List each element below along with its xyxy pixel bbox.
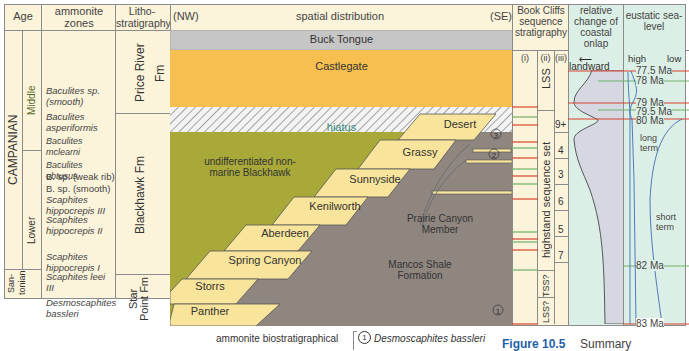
zone-scaphites-leei: Scaphites leei III [46, 272, 112, 293]
parasequence-panther: Panther [180, 305, 240, 317]
col-ii: (ii) [537, 52, 554, 64]
biostrat-label: ammonite biostratigraphical [216, 333, 338, 344]
age-header: Age [4, 10, 42, 22]
seq-num-4: 4 [558, 145, 564, 156]
zone-b-weak-rib: B. sp. (weak rib) [46, 172, 116, 183]
zone-scaphites-h2: Scaphites hippocrepis II [46, 215, 112, 236]
ii-divider-2 [537, 270, 554, 271]
se-label: (SE) [480, 10, 512, 22]
santonian-label: San-tonian [6, 271, 40, 295]
star-point-fm: Star Point Fm [128, 276, 160, 322]
age-83: 83 Ma [636, 318, 664, 329]
seq-num-9: 9+ [555, 119, 566, 130]
legend-marker-1: 1 [358, 331, 371, 344]
legend-desmoscaphites: Desmoscaphites bassleri [374, 333, 485, 344]
buck-tongue-label: Buck Tongue [170, 33, 513, 45]
zone-desmoscaphites: Desmoscaphites bassleri [46, 298, 112, 319]
zone-scaphites-h3: Scaphites hippocrepis III [46, 195, 112, 216]
zone-baculites-mclearni: Baculites mclearni [46, 136, 116, 157]
undiff-blackhawk-label: undifferentiated non-marine Blackhawk [200, 156, 300, 178]
parasequence-spring-canyon: Spring Canyon [220, 254, 310, 266]
parasequence-aberdeen: Aberdeen [250, 227, 320, 239]
book-cliffs-header: Book Cliffs sequence stratigraphy [513, 5, 569, 38]
blackhawk-fm: Blackhawk Fm [130, 130, 150, 260]
col-i: (i) [513, 52, 537, 64]
lower-label: Lower [24, 200, 40, 260]
parasequence-desert: Desert [430, 118, 490, 130]
lss-label: LSS [538, 64, 554, 94]
figure-number: Figure 10.5 [502, 337, 565, 351]
mancos-label: Mancos Shale Formation [380, 259, 460, 281]
onlap-header: relative change of coastal onlap [568, 5, 624, 49]
figure-caption: Summary [580, 337, 631, 351]
sealevel-header: eustatic sea-level [624, 10, 684, 32]
nw-label: (NW) [173, 10, 209, 22]
tss-label: TSS? [538, 272, 554, 300]
age-80: 80 Ma [636, 115, 664, 126]
hss-label: highstand sequence set [538, 130, 554, 270]
legend-bracket [353, 331, 357, 350]
sequence-boundary-lines [512, 100, 538, 326]
seq-num-3: 3 [558, 169, 564, 180]
age-82: 82 Ma [636, 260, 664, 271]
col-iii: (iii) [554, 52, 568, 64]
zone-baculites-asperiformis: Baculites asperiformis [46, 112, 112, 133]
svg-text:2: 2 [492, 151, 497, 160]
formation-divider-2 [115, 274, 171, 275]
ammonite-zones-header: ammonite zones [46, 5, 112, 29]
parasequence-kenilworth: Kenilworth [300, 200, 370, 212]
short-term-label: short term [656, 212, 682, 232]
middle-label: Middle [24, 70, 40, 130]
svg-text:1: 1 [496, 307, 501, 316]
parasequence-grassy: Grassy [390, 146, 450, 158]
parasequence-storrs: Storrs [180, 280, 240, 292]
lss-q-label: LSS? [538, 300, 554, 324]
long-term-label: long term [640, 133, 662, 153]
castlegate-label: Castlegate [170, 60, 513, 72]
seq-num-7: 7 [558, 250, 564, 261]
iii-dividers [554, 132, 568, 133]
zone-b-smooth: B. sp. (smooth) [46, 184, 116, 195]
zone-baculites-smooth: Baculites sp. (smooth) [46, 86, 112, 107]
price-river-fm: Price River Fm [130, 36, 150, 110]
sealevel-curves [568, 60, 689, 326]
age-middle-lower-divider [22, 150, 42, 151]
ii-divider-3 [537, 297, 554, 298]
age-78: 78 Ma [636, 75, 664, 86]
parasequence-sunnyside: Sunnyside [340, 173, 410, 185]
spatial-title: spatial distribution [230, 10, 450, 22]
stage-label: CAMPANIAN [5, 40, 21, 260]
prairie-canyon-label: Prairie Canyon Member [400, 213, 480, 235]
zone-scaphites-h1: Scaphites hippocrepis I [46, 252, 112, 273]
ii-divider-1 [537, 110, 554, 111]
book-cliffs-subdiv-2 [554, 50, 555, 324]
formation-divider-1 [115, 113, 171, 114]
seq-num-6: 6 [558, 196, 564, 207]
lithostratigraphy-header: Litho-stratigraphy [116, 5, 168, 29]
seq-num-5: 5 [558, 224, 564, 235]
